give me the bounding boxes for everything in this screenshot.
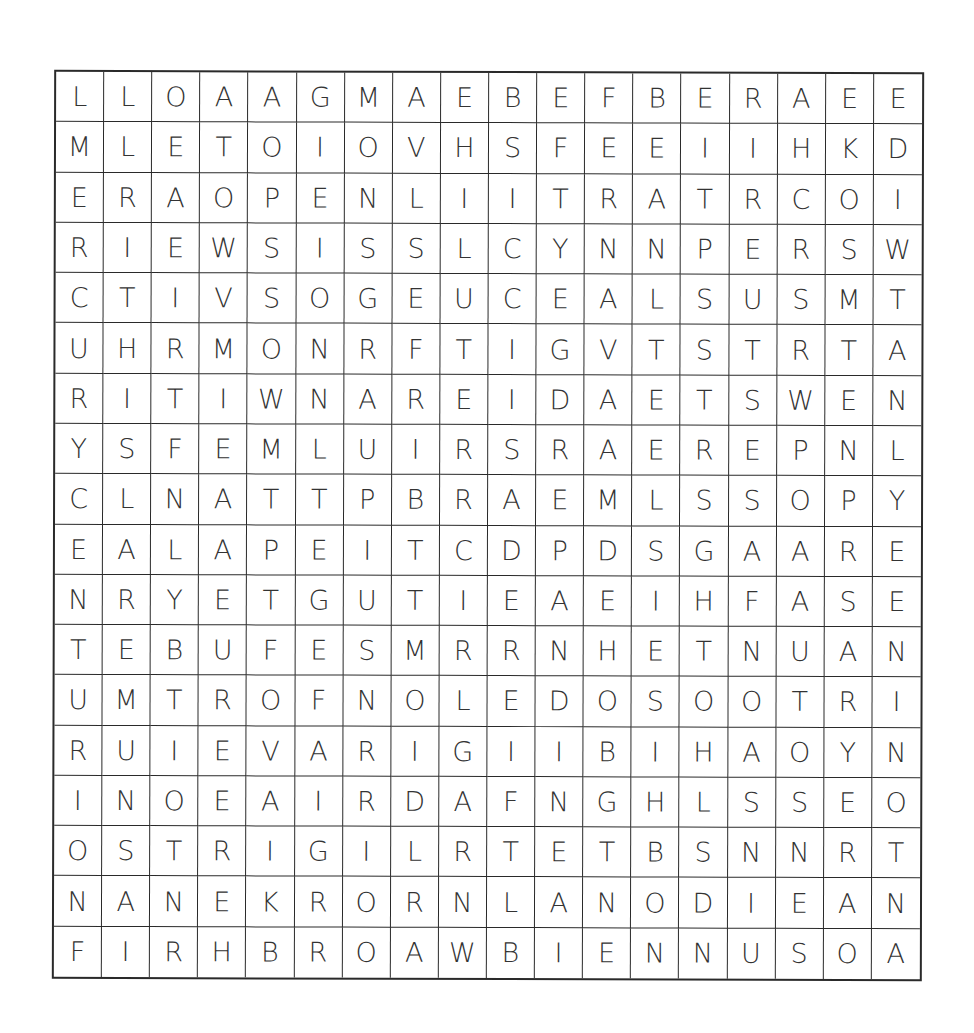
grid-cell-r0-c11[interactable]: F	[585, 73, 633, 123]
grid-cell-r11-c9[interactable]: R	[488, 626, 536, 676]
grid-cell-r11-c6[interactable]: S	[343, 626, 391, 676]
grid-cell-r1-c13[interactable]: I	[681, 124, 729, 174]
grid-cell-r15-c0[interactable]: O	[54, 826, 102, 876]
grid-cell-r1-c17[interactable]: D	[874, 124, 922, 174]
grid-cell-r3-c17[interactable]: W	[874, 225, 922, 275]
grid-cell-r4-c10[interactable]: E	[537, 274, 585, 324]
grid-cell-r4-c6[interactable]: G	[344, 274, 392, 324]
grid-cell-r3-c11[interactable]: N	[585, 224, 633, 274]
grid-cell-r7-c13[interactable]: R	[681, 425, 729, 475]
grid-cell-r4-c11[interactable]: A	[585, 274, 633, 324]
grid-cell-r2-c8[interactable]: I	[441, 173, 489, 223]
grid-cell-r4-c13[interactable]: S	[681, 275, 729, 325]
grid-cell-r2-c1[interactable]: R	[104, 173, 152, 223]
grid-cell-r5-c17[interactable]: A	[873, 325, 921, 375]
grid-cell-r3-c6[interactable]: S	[344, 223, 392, 273]
grid-cell-r1-c2[interactable]: E	[152, 122, 200, 172]
grid-cell-r12-c5[interactable]: F	[295, 676, 343, 726]
grid-cell-r7-c6[interactable]: U	[344, 425, 392, 475]
grid-cell-r7-c16[interactable]: N	[825, 426, 873, 476]
grid-cell-r3-c15[interactable]: R	[777, 225, 825, 275]
grid-cell-r11-c0[interactable]: T	[55, 625, 103, 675]
grid-cell-r13-c10[interactable]: I	[535, 727, 583, 777]
grid-cell-r6-c5[interactable]: N	[296, 374, 344, 424]
grid-cell-r9-c7[interactable]: T	[392, 525, 440, 575]
grid-cell-r15-c7[interactable]: L	[391, 827, 439, 877]
grid-cell-r3-c16[interactable]: S	[825, 225, 873, 275]
grid-cell-r17-c3[interactable]: H	[198, 927, 246, 977]
grid-cell-r12-c6[interactable]: N	[343, 676, 391, 726]
grid-cell-r1-c12[interactable]: E	[633, 124, 681, 174]
grid-cell-r2-c15[interactable]: C	[777, 174, 825, 224]
grid-cell-r7-c11[interactable]: A	[584, 425, 632, 475]
grid-cell-r10-c15[interactable]: A	[776, 577, 824, 627]
grid-cell-r7-c15[interactable]: P	[777, 426, 825, 476]
grid-cell-r5-c7[interactable]: F	[392, 324, 440, 374]
grid-cell-r10-c2[interactable]: Y	[151, 575, 199, 625]
grid-cell-r9-c17[interactable]: E	[873, 527, 921, 577]
grid-cell-r14-c15[interactable]: S	[776, 778, 824, 828]
grid-cell-r8-c1[interactable]: L	[103, 474, 151, 524]
grid-cell-r7-c17[interactable]: L	[873, 426, 921, 476]
grid-cell-r0-c10[interactable]: E	[537, 73, 585, 123]
grid-cell-r9-c13[interactable]: G	[680, 526, 728, 576]
grid-cell-r14-c0[interactable]: I	[54, 776, 102, 826]
grid-cell-r14-c17[interactable]: O	[872, 778, 920, 828]
grid-cell-r0-c14[interactable]: R	[730, 74, 778, 124]
grid-cell-r13-c8[interactable]: G	[439, 726, 487, 776]
grid-cell-r15-c9[interactable]: T	[487, 827, 535, 877]
grid-cell-r11-c13[interactable]: T	[680, 627, 728, 677]
grid-cell-r8-c4[interactable]: T	[247, 475, 295, 525]
grid-cell-r7-c3[interactable]: E	[199, 424, 247, 474]
grid-cell-r6-c2[interactable]: T	[151, 374, 199, 424]
grid-cell-r0-c1[interactable]: L	[104, 72, 152, 122]
grid-cell-r3-c13[interactable]: P	[681, 224, 729, 274]
grid-cell-r16-c17[interactable]: N	[872, 878, 920, 928]
grid-cell-r16-c11[interactable]: N	[583, 878, 631, 928]
grid-cell-r3-c5[interactable]: I	[296, 223, 344, 273]
grid-cell-r6-c4[interactable]: W	[248, 374, 296, 424]
grid-cell-r17-c4[interactable]: B	[246, 927, 294, 977]
grid-cell-r9-c0[interactable]: E	[55, 524, 103, 574]
grid-cell-r13-c1[interactable]: U	[102, 726, 150, 776]
grid-cell-r15-c16[interactable]: R	[824, 828, 872, 878]
grid-cell-r1-c15[interactable]: H	[778, 124, 826, 174]
grid-cell-r9-c16[interactable]: R	[825, 526, 873, 576]
grid-cell-r12-c15[interactable]: T	[776, 677, 824, 727]
grid-cell-r0-c5[interactable]: G	[297, 72, 345, 122]
grid-cell-r9-c11[interactable]: D	[584, 526, 632, 576]
grid-cell-r15-c10[interactable]: E	[535, 827, 583, 877]
grid-cell-r9-c6[interactable]: I	[344, 525, 392, 575]
grid-cell-r2-c16[interactable]: O	[826, 174, 874, 224]
grid-cell-r13-c6[interactable]: R	[343, 726, 391, 776]
grid-cell-r6-c6[interactable]: A	[344, 374, 392, 424]
grid-cell-r8-c15[interactable]: O	[777, 476, 825, 526]
grid-cell-r7-c2[interactable]: F	[151, 424, 199, 474]
grid-cell-r13-c11[interactable]: B	[584, 727, 632, 777]
grid-cell-r5-c3[interactable]: M	[200, 324, 248, 374]
grid-cell-r5-c14[interactable]: T	[729, 325, 777, 375]
grid-cell-r6-c11[interactable]: A	[584, 375, 632, 425]
grid-cell-r6-c7[interactable]: R	[392, 374, 440, 424]
grid-cell-r8-c12[interactable]: L	[632, 476, 680, 526]
grid-cell-r1-c3[interactable]: T	[200, 123, 248, 173]
grid-cell-r16-c14[interactable]: I	[727, 878, 775, 928]
grid-cell-r5-c13[interactable]: S	[681, 325, 729, 375]
grid-cell-r17-c7[interactable]: A	[391, 927, 439, 977]
grid-cell-r11-c17[interactable]: N	[872, 627, 920, 677]
grid-cell-r10-c16[interactable]: S	[825, 577, 873, 627]
grid-cell-r16-c5[interactable]: R	[294, 877, 342, 927]
grid-cell-r3-c1[interactable]: I	[104, 223, 152, 273]
grid-cell-r3-c14[interactable]: E	[729, 224, 777, 274]
grid-cell-r8-c8[interactable]: R	[440, 475, 488, 525]
grid-cell-r6-c14[interactable]: S	[729, 375, 777, 425]
grid-cell-r8-c16[interactable]: P	[825, 476, 873, 526]
grid-cell-r10-c11[interactable]: E	[584, 576, 632, 626]
grid-cell-r12-c0[interactable]: U	[54, 675, 102, 725]
grid-cell-r5-c12[interactable]: T	[633, 325, 681, 375]
grid-cell-r17-c16[interactable]: O	[824, 929, 872, 979]
grid-cell-r0-c16[interactable]: E	[826, 74, 874, 124]
grid-cell-r10-c4[interactable]: T	[247, 575, 295, 625]
grid-cell-r6-c13[interactable]: T	[681, 375, 729, 425]
grid-cell-r17-c6[interactable]: O	[342, 927, 390, 977]
